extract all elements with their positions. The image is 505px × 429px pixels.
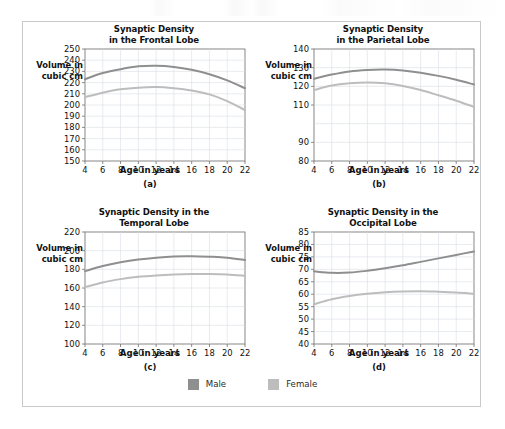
- chart-title: Synaptic Density in the Occipital Lobe: [290, 207, 476, 229]
- chart-title-line1: Synaptic Density: [114, 24, 194, 34]
- chart-title-line1: Synaptic Density in the: [99, 207, 210, 217]
- svg-text:210: 210: [64, 89, 80, 99]
- svg-text:75: 75: [298, 252, 309, 262]
- svg-text:70: 70: [298, 264, 309, 274]
- svg-text:120: 120: [293, 81, 309, 91]
- chart-title-line2: in the Frontal Lobe: [109, 35, 199, 45]
- svg-text:140: 140: [293, 44, 309, 54]
- svg-text:160: 160: [64, 283, 80, 293]
- svg-text:240: 240: [64, 55, 80, 65]
- chart-panel-temporal-lobe: Synaptic Density in the Temporal Lobe Vo…: [23, 205, 252, 379]
- legend-swatch-male: [188, 379, 199, 390]
- scan-artifact-strip: [0, 0, 505, 16]
- panel-letter: (c): [75, 362, 225, 372]
- svg-text:50: 50: [298, 314, 309, 324]
- svg-text:80: 80: [298, 239, 309, 249]
- svg-text:220: 220: [64, 227, 80, 237]
- svg-text:160: 160: [64, 145, 80, 155]
- svg-text:250: 250: [64, 44, 80, 54]
- chart-panel-grid: Synaptic Density in the Frontal Lobe Vol…: [23, 22, 482, 370]
- figure-frame: Synaptic Density in the Frontal Lobe Vol…: [22, 21, 481, 407]
- figure-legend: Male Female: [23, 374, 482, 394]
- svg-text:22: 22: [240, 165, 251, 175]
- panel-letter: (d): [304, 362, 454, 372]
- x-axis-label: Age in years: [75, 348, 225, 358]
- panel-letter: (a): [75, 179, 225, 189]
- svg-text:200: 200: [64, 100, 80, 110]
- svg-text:130: 130: [293, 63, 309, 73]
- svg-text:110: 110: [293, 100, 309, 110]
- chart-panel-frontal-lobe: Synaptic Density in the Frontal Lobe Vol…: [23, 22, 252, 196]
- svg-text:190: 190: [64, 111, 80, 121]
- plot-area: 4045505560657075808546810121416182022: [314, 232, 474, 344]
- chart-title: Synaptic Density in the Temporal Lobe: [61, 207, 247, 229]
- svg-text:65: 65: [298, 277, 309, 287]
- plot-area: 809011012013014046810121416182022: [314, 49, 474, 161]
- svg-text:230: 230: [64, 66, 80, 76]
- svg-text:140: 140: [64, 302, 80, 312]
- chart-title-line1: Synaptic Density in the: [328, 207, 439, 217]
- legend-swatch-female: [268, 379, 279, 390]
- svg-text:170: 170: [64, 134, 80, 144]
- chart-title: Synaptic Density in the Frontal Lobe: [61, 24, 247, 46]
- svg-text:90: 90: [298, 137, 309, 147]
- svg-text:22: 22: [469, 348, 480, 358]
- svg-text:220: 220: [64, 78, 80, 88]
- svg-text:180: 180: [64, 264, 80, 274]
- chart-title: Synaptic Density in the Parietal Lobe: [290, 24, 476, 46]
- svg-text:180: 180: [64, 122, 80, 132]
- svg-text:45: 45: [298, 327, 309, 337]
- svg-text:22: 22: [240, 348, 251, 358]
- svg-text:60: 60: [298, 289, 309, 299]
- x-axis-label: Age in years: [75, 165, 225, 175]
- chart-title-line2: Occipital Lobe: [349, 218, 416, 228]
- legend-label-female: Female: [286, 379, 317, 389]
- plot-area: 10012014016018020022046810121416182022: [85, 232, 245, 344]
- svg-text:22: 22: [469, 165, 480, 175]
- x-axis-label: Age in years: [304, 348, 454, 358]
- chart-panel-occipital-lobe: Synaptic Density in the Occipital Lobe V…: [252, 205, 481, 379]
- svg-text:85: 85: [298, 227, 309, 237]
- plot-area: 1501601701801902002102202302402504681012…: [85, 49, 245, 161]
- svg-text:200: 200: [64, 246, 80, 256]
- chart-title-line2: Temporal Lobe: [119, 218, 189, 228]
- svg-text:55: 55: [298, 302, 309, 312]
- legend-entry-female: Female: [268, 379, 317, 390]
- chart-title-line2: in the Parietal Lobe: [336, 35, 429, 45]
- x-axis-label: Age in years: [304, 165, 454, 175]
- chart-panel-parietal-lobe: Synaptic Density in the Parietal Lobe Vo…: [252, 22, 481, 196]
- svg-text:120: 120: [64, 320, 80, 330]
- legend-entry-male: Male: [188, 379, 226, 390]
- panel-letter: (b): [304, 179, 454, 189]
- chart-title-line1: Synaptic Density: [343, 24, 423, 34]
- legend-label-male: Male: [206, 379, 226, 389]
